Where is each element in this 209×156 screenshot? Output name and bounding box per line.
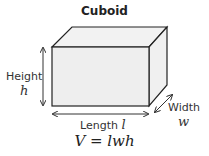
length-variable: l xyxy=(121,117,125,132)
cuboid-front-face xyxy=(52,47,149,106)
width-variable: w xyxy=(178,114,189,129)
width-label: Width xyxy=(168,101,200,114)
volume-formula: V = lwh xyxy=(0,132,209,150)
length-label: Length l xyxy=(80,117,126,132)
height-label: Height xyxy=(6,70,42,83)
height-variable: h xyxy=(20,83,28,98)
length-text: Length xyxy=(80,119,118,132)
cuboid-top-face xyxy=(52,27,167,47)
